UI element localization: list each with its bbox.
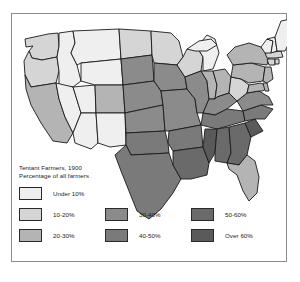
map-figure: Tentant Farmers, 1900 Percentage of all … bbox=[0, 0, 300, 282]
legend-label: 10-20% bbox=[53, 211, 75, 218]
legend-label: 20-30% bbox=[53, 232, 75, 239]
state-AL[interactable] bbox=[215, 127, 231, 163]
state-CT[interactable] bbox=[267, 59, 275, 65]
legend-swatch bbox=[105, 229, 128, 242]
state-MN[interactable] bbox=[151, 31, 183, 65]
legend-row: 20-30% 40-50% Over 60% bbox=[19, 225, 279, 246]
state-WY[interactable] bbox=[81, 59, 123, 85]
legend-entry-10-20[interactable]: 10-20% bbox=[19, 208, 105, 221]
legend-label: 50-60% bbox=[225, 211, 247, 218]
legend-swatch bbox=[191, 229, 214, 242]
state-ND[interactable] bbox=[119, 29, 152, 59]
legend-swatch bbox=[19, 187, 42, 200]
state-RI[interactable] bbox=[275, 59, 279, 64]
legend-label: Under 10% bbox=[53, 190, 84, 197]
legend-rows: Under 10% 10-20% 30-40% bbox=[19, 183, 279, 246]
legend-label: 30-40% bbox=[139, 211, 161, 218]
legend-entry-50-60[interactable]: 50-60% bbox=[191, 208, 277, 221]
legend-label: Over 60% bbox=[225, 232, 253, 239]
legend-row: Under 10% bbox=[19, 183, 279, 204]
legend-entry-empty bbox=[105, 187, 191, 200]
legend-row: 10-20% 30-40% 50-60% bbox=[19, 204, 279, 225]
legend-entry-empty bbox=[191, 187, 277, 200]
legend-label: 40-50% bbox=[139, 232, 161, 239]
state-CO[interactable] bbox=[95, 85, 125, 113]
legend-title-line1: Tentant Farmers, 1900 bbox=[19, 164, 279, 172]
map-legend: Tentant Farmers, 1900 Percentage of all … bbox=[19, 164, 279, 246]
state-NM[interactable] bbox=[96, 113, 126, 147]
legend-swatch bbox=[191, 208, 214, 221]
legend-swatch bbox=[105, 208, 128, 221]
legend-entry-under-10[interactable]: Under 10% bbox=[19, 187, 105, 200]
legend-entry-over-60[interactable]: Over 60% bbox=[191, 229, 277, 242]
legend-swatch bbox=[19, 229, 42, 242]
legend-entry-30-40[interactable]: 30-40% bbox=[105, 208, 191, 221]
state-SD[interactable] bbox=[121, 55, 154, 85]
legend-swatch bbox=[19, 208, 42, 221]
state-ME[interactable] bbox=[275, 19, 287, 51]
legend-title: Tentant Farmers, 1900 Percentage of all … bbox=[19, 164, 279, 179]
state-NJ[interactable] bbox=[263, 67, 273, 83]
legend-title-line2: Percentage of all farmers bbox=[19, 172, 279, 180]
legend-entry-40-50[interactable]: 40-50% bbox=[105, 229, 191, 242]
state-OK[interactable] bbox=[126, 131, 169, 155]
legend-entry-20-30[interactable]: 20-30% bbox=[19, 229, 105, 242]
